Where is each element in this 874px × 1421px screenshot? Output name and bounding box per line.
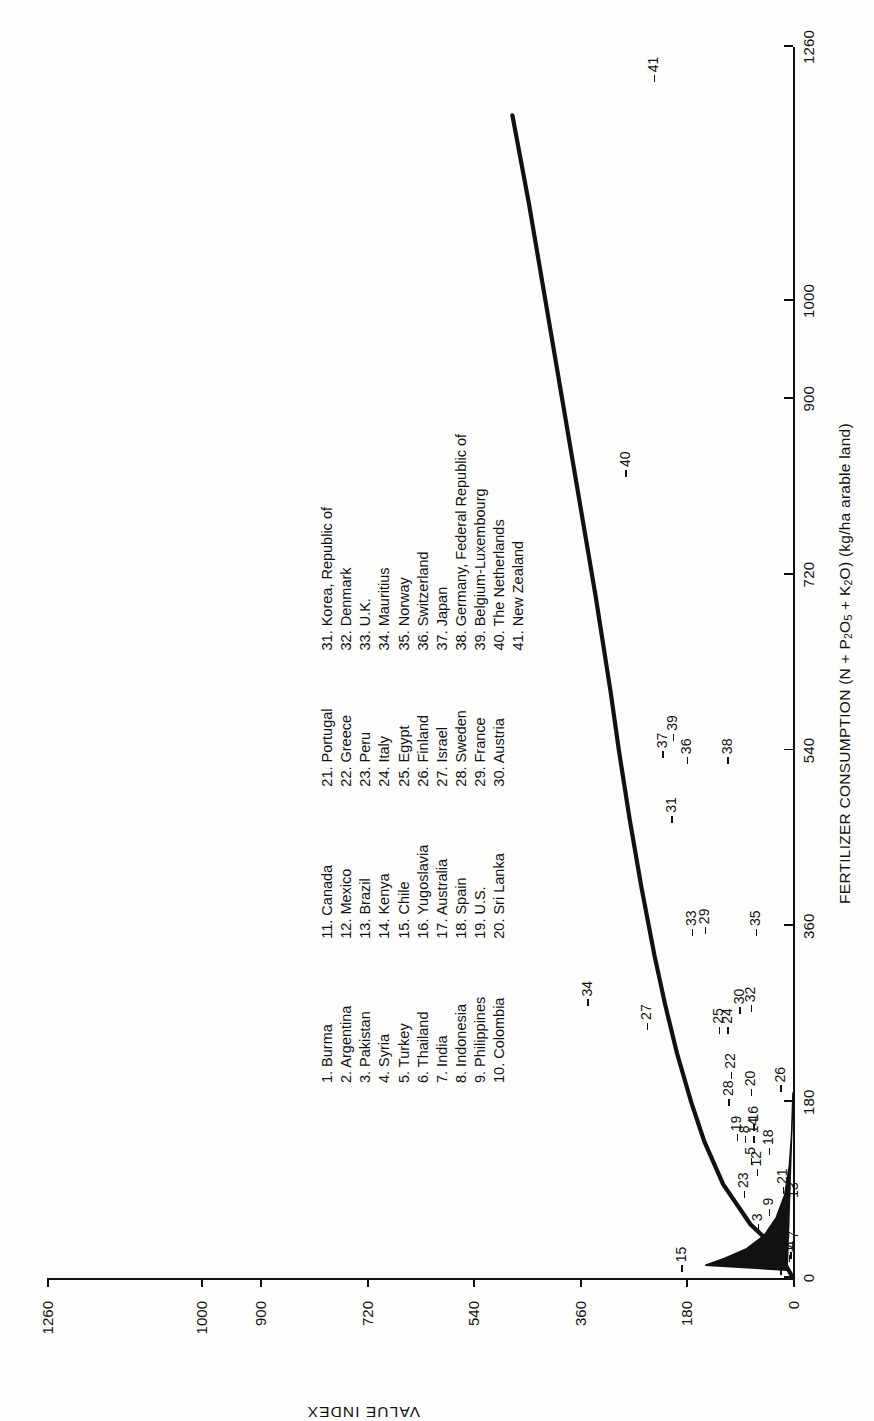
legend-item: 36. Switzerland: [414, 434, 433, 651]
legend-item: 12. Mexico: [337, 845, 356, 939]
legend-item: 31. Korea, Republic of: [318, 434, 337, 651]
data-point-33: 33: [684, 911, 698, 937]
data-point-23: 23: [736, 1172, 750, 1198]
x-tick-label-720: 720: [800, 562, 817, 588]
x-tick-180: [784, 1100, 793, 1102]
legend-item: 29. France: [471, 708, 490, 786]
x-tick-label-1000: 1000: [800, 284, 817, 318]
legend-item: 39. Belgium-Luxembourg: [471, 434, 490, 651]
y-tick-label-1260: 1260: [39, 1301, 56, 1334]
y-tick-540: [473, 1278, 475, 1287]
legend-item: 17. Australia: [433, 845, 452, 939]
y-axis-line: [47, 1278, 795, 1280]
legend-item: 4. Syria: [375, 997, 394, 1083]
data-point-17: 17: [777, 1211, 791, 1237]
data-point-32: 32: [743, 987, 757, 1013]
data-point-21: 21: [775, 1168, 789, 1194]
data-point-18: 18: [761, 1129, 775, 1155]
legend-item: 37. Japan: [433, 434, 452, 651]
legend-item: 1. Burma: [318, 997, 337, 1083]
legend-item: 22. Greece: [337, 708, 356, 786]
x-tick-label-540: 540: [800, 738, 817, 764]
legend-item: 41. New Zealand: [509, 434, 528, 651]
data-point-39: 39: [665, 715, 679, 741]
x-tick-label-1260: 1260: [800, 30, 817, 64]
y-tick-720: [367, 1278, 369, 1287]
legend-item: 15. Chile: [395, 845, 414, 939]
y-tick-label-900: 900: [252, 1301, 269, 1326]
legend-item: 7. India: [433, 997, 452, 1083]
x-tick-label-900: 900: [800, 386, 817, 412]
x-tick-1000: [784, 299, 793, 301]
data-point-35: 35: [748, 911, 762, 937]
legend-item: 9. Philippines: [471, 997, 490, 1083]
y-tick-0: [793, 1278, 795, 1287]
data-point-16: 16: [746, 1106, 760, 1132]
legend-item: 32. Denmark: [337, 434, 356, 651]
legend-item: 28. Sweden: [452, 708, 471, 786]
legend-item: 18. Spain: [452, 845, 471, 939]
legend: 1. Burma2. Argentina3. Pakistan4. Syria5…: [318, 434, 528, 1083]
legend-item: 6. Thailand: [414, 997, 433, 1083]
legend-item: 25. Egypt: [395, 708, 414, 786]
x-tick-1260: [784, 45, 793, 47]
data-point-2: 2: [773, 1257, 787, 1275]
data-point-9: 9: [761, 1198, 775, 1216]
y-tick-1000: [201, 1278, 203, 1287]
y-tick-1260: [47, 1278, 49, 1287]
legend-column-1: 1. Burma2. Argentina3. Pakistan4. Syria5…: [318, 997, 528, 1083]
data-point-38: 38: [720, 739, 734, 765]
legend-item: 21. Portugal: [318, 708, 337, 786]
y-tick-label-720: 720: [358, 1301, 375, 1326]
legend-item: 10. Colombia: [490, 997, 509, 1083]
data-point-27: 27: [639, 1004, 653, 1030]
y-tick-360: [580, 1278, 582, 1287]
data-point-25: 25: [711, 1008, 725, 1034]
legend-item: 35. Norway: [395, 434, 414, 651]
data-point-41: 41: [646, 57, 660, 83]
x-tick-360: [784, 925, 793, 927]
legend-item: 11. Canada: [318, 845, 337, 939]
legend-item: 30. Austria: [490, 708, 509, 786]
legend-item: 13. Brazil: [356, 845, 375, 939]
legend-item: 26. Finland: [414, 708, 433, 786]
x-tick-720: [784, 573, 793, 575]
legend-item: 34. Mauritius: [375, 434, 394, 651]
y-tick-180: [686, 1278, 688, 1287]
legend-item: 27. Israel: [433, 708, 452, 786]
legend-item: 16. Yugoslavia: [414, 845, 433, 939]
legend-column-3: 21. Portugal22. Greece23. Peru24. Italy2…: [318, 708, 528, 786]
data-point-29: 29: [697, 909, 711, 935]
legend-item: 3. Pakistan: [356, 997, 375, 1083]
y-tick-label-0: 0: [785, 1301, 802, 1309]
x-tick-label-0: 0: [800, 1274, 817, 1283]
legend-item: 23. Peru: [356, 708, 375, 786]
data-point-36: 36: [679, 739, 693, 765]
data-point-26: 26: [773, 1067, 787, 1093]
y-tick-label-540: 540: [465, 1301, 482, 1326]
legend-item: 33. U.K.: [356, 434, 375, 651]
y-tick-label-360: 360: [571, 1301, 588, 1326]
data-point-19: 19: [729, 1116, 743, 1142]
data-point-28: 28: [721, 1081, 735, 1107]
data-point-40: 40: [618, 451, 632, 477]
legend-item: 40. The Netherlands: [490, 434, 509, 651]
legend-item: 5. Turkey: [395, 997, 414, 1083]
data-point-34: 34: [580, 981, 594, 1007]
legend-column-2: 11. Canada12. Mexico13. Brazil14. Kenya1…: [318, 845, 528, 939]
y-axis-title: VALUE INDEX: [307, 1403, 420, 1421]
y-tick-label-180: 180: [678, 1301, 695, 1326]
legend-item: 38. Germany, Federal Republic of: [452, 434, 471, 651]
legend-column-4: 31. Korea, Republic of32. Denmark33. U.K…: [318, 434, 528, 651]
legend-item: 2. Argentina: [337, 997, 356, 1083]
data-point-20: 20: [743, 1071, 757, 1097]
x-tick-label-180: 180: [800, 1089, 817, 1115]
x-axis-title: FERTILIZER CONSUMPTION (N + P2O5 + K2O) …: [836, 47, 854, 1280]
data-point-31: 31: [664, 797, 678, 823]
y-tick-label-1000: 1000: [192, 1301, 209, 1334]
y-tick-900: [260, 1278, 262, 1287]
legend-item: 14. Kenya: [375, 845, 394, 939]
legend-item: 24. Italy: [375, 708, 394, 786]
legend-item: 19. U.S.: [471, 845, 490, 939]
